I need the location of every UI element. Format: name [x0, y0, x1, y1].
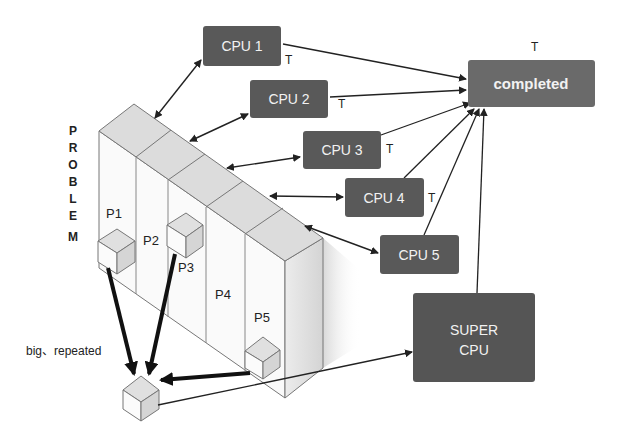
svg-text:CPU 5: CPU 5	[398, 247, 439, 263]
arrow-super-cpu-completed	[477, 109, 484, 293]
arrow-wall-cpu4	[270, 196, 343, 197]
cpu-3-box: CPU 3	[303, 131, 381, 169]
arrow-cpu1-completed	[283, 44, 466, 79]
completed-box: completed	[468, 60, 595, 107]
super-cpu-box: SUPER CPU	[413, 293, 535, 382]
svg-text:R: R	[69, 141, 78, 155]
svg-text:E: E	[69, 209, 77, 223]
partition-label-p2: P2	[143, 233, 159, 248]
svg-text:CPU 2: CPU 2	[268, 91, 309, 107]
arrow-cpu3-completed	[381, 103, 470, 135]
cpu-2-t-label: T	[338, 97, 346, 111]
arrow-cpu5-completed	[424, 109, 479, 235]
svg-text:P: P	[69, 124, 77, 138]
arrow-wall-cpu3	[227, 157, 300, 168]
svg-text:CPU: CPU	[459, 342, 489, 358]
partition-label-p4: P4	[215, 287, 231, 302]
cpu-2-box: CPU 2	[250, 80, 328, 118]
arrow-wall-cpu1	[155, 60, 201, 118]
svg-text:completed: completed	[493, 75, 568, 92]
arrow-p5-to-combined	[161, 373, 250, 380]
cpu-1-t-label: T	[285, 53, 293, 67]
big-repeated-note: big、repeated	[26, 344, 101, 358]
svg-text:CPU 3: CPU 3	[321, 142, 362, 158]
cpu-4-box: CPU 4	[345, 178, 424, 217]
parallel-computing-diagram: P R O B L E M P1 P2 P3 P4 P5	[0, 0, 627, 441]
arrow-cpu2-completed	[330, 90, 466, 97]
partition-label-p5: P5	[254, 310, 270, 325]
svg-text:B: B	[69, 175, 78, 189]
partition-label-p3: P3	[178, 260, 194, 275]
cpu-1-box: CPU 1	[203, 26, 281, 66]
arrow-wall-cpu2	[190, 114, 248, 141]
partition-label-p1: P1	[106, 206, 122, 221]
problem-vertical-label: P R O B L E M	[68, 124, 78, 244]
cube-combined	[123, 376, 159, 421]
cpu-4-t-label: T	[428, 191, 436, 205]
svg-text:L: L	[69, 192, 76, 206]
svg-text:CPU 4: CPU 4	[363, 190, 404, 206]
svg-text:SUPER: SUPER	[450, 322, 498, 338]
cpu-5-box: CPU 5	[380, 235, 459, 274]
completed-t-label: T	[531, 40, 539, 54]
svg-text:O: O	[68, 158, 77, 172]
svg-text:M: M	[68, 230, 78, 244]
wall-shadow	[323, 238, 360, 368]
svg-text:CPU 1: CPU 1	[221, 38, 262, 54]
cpu-3-t-label: T	[386, 142, 394, 156]
